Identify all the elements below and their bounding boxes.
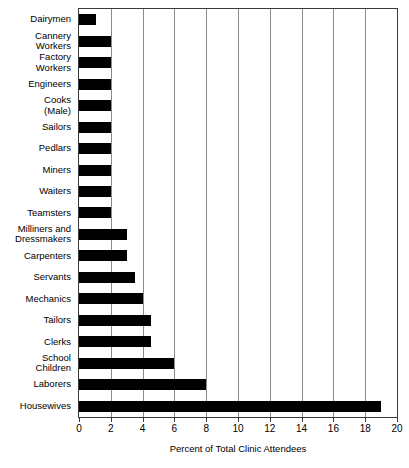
bar: [79, 229, 127, 240]
bar: [79, 315, 151, 326]
bar: [79, 293, 143, 304]
x-tick-label: 12: [258, 423, 282, 435]
bar: [79, 36, 111, 47]
bar: [79, 358, 174, 369]
category-axis-labels: DairymenCannery WorkersFactory WorkersEn…: [0, 9, 74, 417]
bar-row: [79, 288, 397, 309]
x-tick-label: 6: [162, 423, 186, 435]
x-tick-mark: [333, 418, 334, 422]
category-label: School Children: [0, 353, 74, 374]
x-tick-mark: [365, 418, 366, 422]
x-tick-mark: [143, 418, 144, 422]
category-label: Tailors: [0, 310, 74, 331]
category-label: Teamsters: [0, 202, 74, 223]
bar-row: [79, 181, 397, 202]
bar-row: [79, 202, 397, 223]
bar-row: [79, 116, 397, 137]
x-tick-label: 0: [67, 423, 91, 435]
bar-row: [79, 374, 397, 395]
bar-row: [79, 353, 397, 374]
x-tick-mark: [79, 418, 80, 422]
bar-row: [79, 395, 397, 416]
bar-row: [79, 73, 397, 94]
x-axis-title: Percent of Total Clinic Attendees: [78, 443, 398, 455]
bar-row: [79, 9, 397, 30]
category-label: Miners: [0, 159, 74, 180]
bar: [79, 379, 206, 390]
category-label: Pedlars: [0, 138, 74, 159]
x-tick-mark: [206, 418, 207, 422]
bar: [79, 250, 127, 261]
category-label: Cannery Workers: [0, 30, 74, 51]
bar: [79, 57, 111, 68]
bar: [79, 186, 111, 197]
bar-row: [79, 310, 397, 331]
bar: [79, 401, 381, 412]
bar-row: [79, 224, 397, 245]
category-label: Housewives: [0, 395, 74, 416]
x-tick-mark: [270, 418, 271, 422]
bar-row: [79, 245, 397, 266]
bar: [79, 336, 151, 347]
category-label: Servants: [0, 267, 74, 288]
bar-row: [79, 95, 397, 116]
category-label: Milliners and Dressmakers: [0, 224, 74, 245]
x-tick-label: 4: [131, 423, 155, 435]
bar: [79, 272, 135, 283]
x-tick-label: 20: [385, 423, 409, 435]
x-tick-label: 18: [353, 423, 377, 435]
bar-row: [79, 267, 397, 288]
x-tick-mark: [238, 418, 239, 422]
x-tick-mark: [397, 418, 398, 422]
x-axis: 02468101214161820: [78, 418, 398, 419]
category-label: Sailors: [0, 116, 74, 137]
bar: [79, 122, 111, 133]
category-label: Cooks (Male): [0, 95, 74, 116]
category-label: Waiters: [0, 181, 74, 202]
bar: [79, 143, 111, 154]
bar-row: [79, 331, 397, 352]
category-label: Carpenters: [0, 245, 74, 266]
bar: [79, 100, 111, 111]
bar-row: [79, 30, 397, 51]
bar-row: [79, 52, 397, 73]
x-tick-mark: [302, 418, 303, 422]
x-tick-label: 14: [290, 423, 314, 435]
x-tick-mark: [111, 418, 112, 422]
x-tick-label: 10: [226, 423, 250, 435]
bar: [79, 207, 111, 218]
x-tick-mark: [174, 418, 175, 422]
bar-chart: DairymenCannery WorkersFactory WorkersEn…: [0, 0, 409, 468]
bar-row: [79, 138, 397, 159]
x-tick-label: 8: [194, 423, 218, 435]
bar-row: [79, 159, 397, 180]
category-label: Factory Workers: [0, 52, 74, 73]
category-label: Laborers: [0, 374, 74, 395]
category-label: Dairymen: [0, 9, 74, 30]
bar: [79, 165, 111, 176]
category-label: Clerks: [0, 331, 74, 352]
x-tick-label: 2: [99, 423, 123, 435]
x-tick-label: 16: [321, 423, 345, 435]
category-label: Mechanics: [0, 288, 74, 309]
category-label: Engineers: [0, 73, 74, 94]
bars-container: [79, 9, 397, 417]
bar: [79, 14, 96, 25]
bar: [79, 79, 111, 90]
